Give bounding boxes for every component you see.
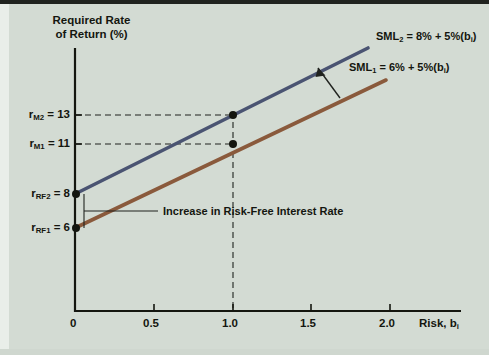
point-rm2 [229, 111, 237, 119]
y-label-rm1-sub: M1 [34, 142, 45, 151]
shift-arrow [316, 68, 341, 98]
y-label-rm2: rM2 = 13 [0, 108, 70, 122]
sml2-equation: SML2 = 8% + 5%(bi) [376, 30, 476, 43]
y-axis-title-line1: Required Rate [34, 14, 149, 28]
x-tick-label-0: 0 [70, 317, 76, 331]
y-label-rrf2-sub: RF2 [36, 192, 51, 201]
x-axis-title-sub: i [457, 322, 459, 331]
risk-free-shift-bracket [84, 194, 158, 228]
x-tick-label-1-0: 1.0 [222, 317, 238, 331]
y-label-rm1-value: = 11 [48, 137, 70, 149]
sml1-equation-sub: 1 [372, 66, 376, 75]
x-axis-title-main: Risk, b [419, 317, 457, 329]
sml1-equation-close: ) [446, 61, 450, 73]
sml2-equation-body: = 8% + 5%(b [406, 30, 470, 42]
y-label-rm1: rM1 = 11 [0, 137, 70, 151]
sml1-equation-tailsub: i [444, 66, 446, 75]
sml1-equation-body: = 6% + 5%(b [379, 61, 443, 73]
figure-canvas: Required Rate of Return (%) rM2 = 13 rM1… [0, 0, 489, 355]
risk-free-increase-annotation: Increase in Risk-Free Interest Rate [163, 205, 343, 218]
sml2-line [75, 48, 368, 194]
x-tick-label-2-0: 2.0 [379, 317, 395, 331]
sml-plot [0, 0, 489, 355]
sml2-equation-close: ) [473, 30, 477, 42]
y-label-rrf2: rRF2 = 8 [0, 187, 70, 201]
point-rm1 [229, 140, 237, 148]
y-label-rm2-sub: M2 [33, 113, 44, 122]
y-label-rrf1-sub: RF1 [36, 226, 51, 235]
y-axis-title: Required Rate of Return (%) [34, 14, 149, 41]
x-tick-label-0-5: 0.5 [143, 317, 159, 331]
y-label-rrf1-value: = 6 [54, 221, 70, 233]
sml1-equation-name: SML [349, 61, 372, 73]
y-label-rm2-value: = 13 [47, 108, 70, 120]
sml1-equation: SML1 = 6% + 5%(bi) [349, 61, 449, 74]
sml2-equation-name: SML [376, 30, 399, 42]
axes-lines [74, 48, 461, 312]
sml2-equation-sub: 2 [399, 35, 403, 44]
y-axis-title-line2: of Return (%) [34, 28, 149, 42]
x-axis-title: Risk, bi [419, 317, 459, 331]
sml2-equation-tailsub: i [471, 35, 473, 44]
y-label-rrf2-value: = 8 [54, 187, 70, 199]
x-tick-label-1-5: 1.5 [300, 317, 316, 331]
y-label-rrf1: rRF1 = 6 [0, 221, 70, 235]
